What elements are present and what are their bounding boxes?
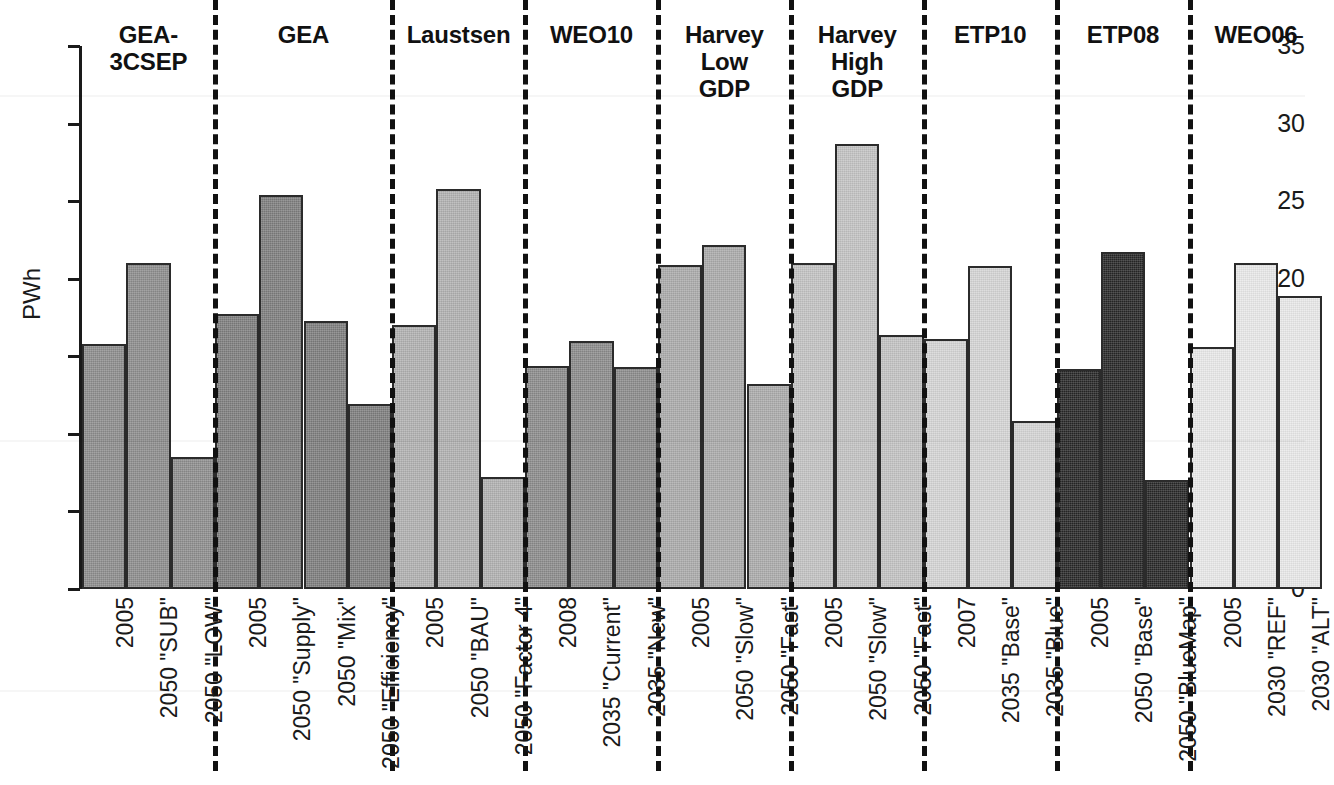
y-axis-tick — [68, 45, 80, 48]
bar — [171, 457, 215, 589]
y-axis-tick — [68, 278, 80, 281]
x-axis-label: 2005 — [1088, 597, 1108, 648]
bar — [835, 144, 879, 589]
x-axis-label: 2050 "Fast" — [911, 597, 931, 716]
x-axis-label-text: 2008 — [557, 597, 580, 648]
x-axis-label: 2008 — [556, 597, 576, 648]
bar — [924, 339, 968, 589]
bar — [1145, 480, 1189, 589]
x-axis-label-text: 2050 "Supply" — [291, 597, 314, 741]
group-header-line: GEA — [215, 22, 392, 49]
x-axis-label: 2005 — [822, 597, 842, 648]
x-axis-label-text: 2005 — [114, 597, 137, 648]
x-axis-label: 2035 "Blue" — [1043, 597, 1063, 717]
group-header: GEA-3CSEP — [82, 22, 215, 76]
group-header-line: Low — [658, 49, 791, 76]
bar — [1012, 421, 1056, 589]
y-axis-tick — [68, 123, 80, 126]
bar — [968, 266, 1012, 589]
bar — [1190, 347, 1234, 589]
bar — [1278, 296, 1322, 589]
x-axis-label-text: 2035 "Blue" — [1044, 597, 1067, 717]
x-axis-label-text: 2007 — [956, 597, 979, 648]
bar — [436, 189, 480, 589]
bar — [702, 245, 746, 589]
x-axis-label-text: 2050 "LOW" — [203, 597, 226, 723]
x-axis-label-text: 2030 "ALT" — [1310, 597, 1333, 711]
bar — [215, 314, 259, 589]
bar — [304, 321, 348, 589]
y-axis-tick — [68, 510, 80, 513]
x-axis-label: 2050 "LOW" — [202, 597, 222, 723]
group-header-line: ETP10 — [924, 22, 1057, 49]
x-axis-label-text: 2005 — [1222, 597, 1245, 648]
x-axis-label: 2030 "ALT" — [1309, 597, 1329, 711]
x-axis-label: 2050 "Slow" — [733, 597, 753, 721]
group-header-line: GEA- — [82, 22, 215, 49]
group-header-line: GDP — [791, 76, 924, 103]
bar — [348, 404, 392, 589]
x-axis-label-text: 2005 — [1089, 597, 1112, 648]
x-axis-label-text: 2005 — [424, 597, 447, 648]
group-header: WEO10 — [525, 22, 658, 49]
x-axis-label: 2050 "Slow" — [866, 597, 886, 721]
bar — [1057, 369, 1101, 589]
bar — [658, 265, 702, 589]
group-header-line: High — [791, 49, 924, 76]
group-header-line: 3CSEP — [82, 49, 215, 76]
bar — [1101, 252, 1145, 589]
x-axis-label: 2005 — [1221, 597, 1241, 648]
x-axis-label-text: 2050 "BlueMap" — [1177, 597, 1200, 762]
x-axis-label-text: 2050 "Fast" — [779, 597, 802, 716]
x-axis-label-text: 2005 — [690, 597, 713, 648]
x-axis-label: 2035 "Base" — [999, 597, 1019, 723]
group-header-line: WEO06 — [1190, 22, 1323, 49]
x-axis-label: 2035 "Current" — [600, 597, 620, 748]
bar — [525, 366, 569, 589]
x-axis-label: 2050 "Efficiency" — [379, 597, 399, 769]
x-axis-label-text: 2005 — [823, 597, 846, 648]
group-header-line: Harvey — [658, 22, 791, 49]
x-axis-label: 2050 "Factor 4" — [512, 597, 532, 755]
x-axis-label: 2035 "New" — [645, 597, 665, 717]
x-axis-label-text: 2050 "Fast" — [912, 597, 935, 716]
bar — [879, 335, 923, 589]
x-axis-label-text: 2050 "Base" — [1133, 597, 1156, 723]
x-axis-label-text: 2050 "Slow" — [867, 597, 890, 721]
group-header: HarveyHighGDP — [791, 22, 924, 103]
x-axis-label: 2005 — [689, 597, 709, 648]
x-axis-label-text: 2050 "Factor 4" — [513, 597, 536, 755]
x-axis-label: 2050 "SUB" — [157, 597, 177, 718]
x-axis-label: 2007 — [955, 597, 975, 648]
x-axis-label-text: 2005 — [247, 597, 270, 648]
y-axis-tick — [68, 433, 80, 436]
x-axis-label: 2050 "BlueMap" — [1176, 597, 1196, 762]
x-axis-label: 2050 "Fast" — [778, 597, 798, 716]
x-axis-label-text: 2030 "REF" — [1266, 597, 1289, 717]
x-axis-label: 2030 "REF" — [1265, 597, 1285, 717]
y-axis-tick — [68, 200, 80, 203]
bar — [392, 325, 436, 589]
x-axis-label: 2050 "BAU" — [468, 597, 488, 718]
x-axis-label-text: 2035 "New" — [646, 597, 669, 717]
y-axis-tick — [68, 588, 80, 591]
group-header: GEA — [215, 22, 392, 49]
group-header-line: Harvey — [791, 22, 924, 49]
x-axis-label: 2050 "Supply" — [290, 597, 310, 741]
bar — [747, 384, 791, 589]
bar — [82, 344, 126, 589]
x-axis-label: 2050 "Mix" — [335, 597, 355, 707]
x-axis-label-text: 2050 "BAU" — [469, 597, 492, 718]
x-axis-label-text: 2050 "Slow" — [734, 597, 757, 721]
bar — [569, 341, 613, 589]
group-header: HarveyLowGDP — [658, 22, 791, 103]
group-header: ETP10 — [924, 22, 1057, 49]
bar — [1234, 263, 1278, 589]
x-axis-label: 2005 — [246, 597, 266, 648]
bar — [614, 367, 658, 589]
x-axis-label-text: 2050 "Mix" — [336, 597, 359, 707]
bar — [259, 195, 303, 589]
group-header-line: Laustsen — [392, 22, 525, 49]
group-header: WEO06 — [1190, 22, 1323, 49]
